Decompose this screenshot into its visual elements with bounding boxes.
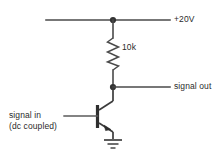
signal-out-label: signal out — [174, 81, 211, 91]
collector-lead-diagonal — [99, 101, 113, 110]
signal-in-coupling-label: (dc coupled) — [9, 121, 57, 131]
supply-voltage-label: +20V — [174, 14, 195, 24]
resistor-value-label: 10k — [122, 42, 136, 52]
resistor-zigzag — [108, 38, 119, 70]
circuit-diagram: +20V 10k signal out signal in (dc couple… — [0, 0, 218, 157]
signal-in-label: signal in — [9, 110, 41, 120]
emitter-arrow-icon — [104, 125, 111, 130]
